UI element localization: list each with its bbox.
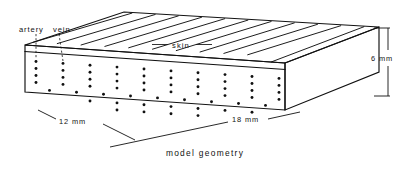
vessel-dot — [35, 67, 38, 70]
vessel-dot — [224, 109, 227, 112]
vessel-dot — [264, 104, 267, 107]
model-geometry-figure: artery vein skin 18 mm 12 mm 6 mm model … — [0, 0, 407, 169]
vessel-dot — [35, 74, 38, 77]
vessel-dot — [89, 85, 92, 88]
vessel-dot — [48, 89, 51, 92]
vessel-dot — [89, 71, 92, 74]
length-dimension — [110, 112, 300, 147]
vessel-dot — [197, 71, 200, 74]
vessel-dot — [143, 68, 146, 71]
vessel-dot — [278, 84, 281, 87]
vessel-dot — [143, 110, 146, 113]
vessel-dot — [183, 98, 186, 101]
vessel-dot — [143, 82, 146, 85]
vessel-dot — [224, 80, 227, 83]
vessel-dot — [278, 77, 281, 80]
vessel-dot — [116, 66, 119, 69]
vessel-dot — [170, 105, 173, 108]
vessel-dot — [116, 109, 119, 112]
vessel-dot — [278, 91, 281, 94]
vessel-dot — [75, 91, 78, 94]
vessel-dot — [62, 62, 65, 65]
vessel-dot — [251, 75, 254, 78]
vessel-dot — [116, 80, 119, 83]
length-dimension-label: 18 mm — [232, 115, 259, 124]
vessel-dot — [197, 85, 200, 88]
vessel-dot — [116, 87, 119, 90]
height-dimension-label: 6 mm — [371, 54, 393, 63]
vessel-dot — [197, 107, 200, 110]
vessel-dot — [251, 111, 254, 114]
vessel-dot — [116, 101, 119, 104]
vessel-dot — [143, 103, 146, 106]
vessel-dot — [102, 93, 105, 96]
vessel-dot — [62, 69, 65, 72]
vessel-dot — [251, 89, 254, 92]
width-dimension — [38, 110, 135, 140]
vessel-dot — [197, 114, 200, 117]
vessel-dot — [129, 95, 132, 98]
vessel-dot — [143, 75, 146, 78]
vessel-dot — [210, 100, 213, 103]
vessel-dot — [62, 83, 65, 86]
vessel-dot — [197, 92, 200, 95]
artery-label: artery — [19, 25, 44, 34]
width-dimension-label: 12 mm — [59, 117, 86, 126]
vessel-dot — [89, 100, 92, 103]
vessel-dot — [224, 73, 227, 76]
vessel-dot — [170, 76, 173, 79]
vessel-dot — [197, 78, 200, 81]
width-dimension-line-left — [38, 110, 56, 119]
vessel-dot — [251, 96, 254, 99]
figure-canvas: artery vein skin 18 mm 12 mm 6 mm model … — [0, 0, 407, 169]
vessel-dot — [89, 64, 92, 67]
vessel-dot — [116, 73, 119, 76]
vessel-dot — [170, 90, 173, 93]
vein-label: vein — [53, 25, 71, 34]
vessel-dot — [62, 76, 65, 79]
vessel-dot — [237, 102, 240, 105]
figure-caption: model geometry — [166, 148, 244, 158]
skin-label: skin — [172, 41, 190, 50]
length-dimension-line-right — [268, 112, 300, 119]
vessel-dot — [224, 87, 227, 90]
vessel-dot — [89, 78, 92, 81]
vessel-dot — [278, 98, 281, 101]
vessel-dot — [224, 94, 227, 97]
vessel-dot — [170, 112, 173, 115]
vessel-dot — [35, 60, 38, 63]
vessel-dot — [170, 83, 173, 86]
vessel-dot — [170, 69, 173, 72]
vessel-dot — [35, 81, 38, 84]
vessel-dot — [156, 96, 159, 99]
vessel-dot — [251, 82, 254, 85]
width-dimension-line-right — [103, 124, 135, 140]
vessel-dot — [143, 89, 146, 92]
length-dimension-line-left — [110, 122, 228, 147]
